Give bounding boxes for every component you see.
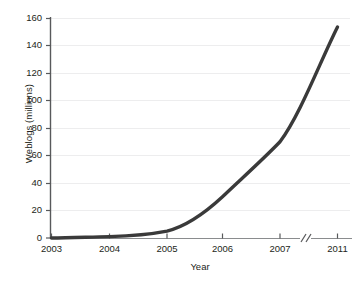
y-tick-20: 20 xyxy=(14,205,42,215)
data-series-weblogs xyxy=(52,27,338,238)
x-axis-title: Year xyxy=(50,261,350,272)
y-tick-160: 160 xyxy=(14,13,42,23)
y-axis-title: Weblogs (millions) xyxy=(23,44,34,204)
x-tick-2004: 2004 xyxy=(88,243,132,254)
x-tick-2006: 2006 xyxy=(201,243,245,254)
line-chart: 160 140 120 100 80 60 40 20 0 2003 2004 … xyxy=(0,0,355,287)
x-tick-2003: 2003 xyxy=(30,243,74,254)
y-tick-0: 0 xyxy=(14,233,42,243)
x-tick-2005: 2005 xyxy=(145,243,189,254)
axis-break-icon xyxy=(301,234,311,242)
x-tick-2007: 2007 xyxy=(258,243,302,254)
x-tick-2011: 2011 xyxy=(316,243,355,254)
gridlines xyxy=(51,19,350,211)
